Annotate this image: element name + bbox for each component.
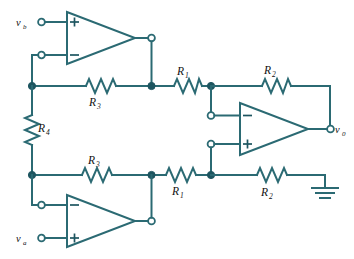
r1-bottom-resistor-symbol <box>166 168 196 182</box>
opamp-triangle <box>67 12 135 64</box>
opamp-triangle <box>67 195 135 247</box>
vb-label: v <box>16 17 21 28</box>
top-rail <box>32 79 211 93</box>
r3-top-label-subscript: 3 <box>96 102 101 111</box>
r4-resistor-symbol <box>25 115 39 145</box>
r3-top-resistor-symbol <box>86 79 116 93</box>
r2-bottom-resistor-symbol <box>257 168 287 182</box>
r1-top-label-subscript: 1 <box>185 71 189 80</box>
r2-top-label-subscript: 2 <box>272 70 276 79</box>
r1-bottom-label: R <box>171 185 179 197</box>
vb-label-subscript: b <box>23 23 27 31</box>
bottom-rail <box>32 168 211 182</box>
vo-label-subscript: 0 <box>342 130 346 138</box>
r2-top-label: R <box>263 64 271 76</box>
plus-icon <box>70 234 79 243</box>
opamp-triangle <box>240 103 308 155</box>
va-label-subscript: a <box>23 239 27 247</box>
r4-label: R <box>37 122 45 134</box>
opamp-bottom-output-terminal[interactable] <box>148 218 155 225</box>
circuit-diagram: v b R 3 R 1 <box>0 0 354 259</box>
ground-icon <box>312 188 338 198</box>
plus-icon <box>70 18 79 27</box>
r1-top-label: R <box>176 65 184 77</box>
right-opamp-inverting-terminal[interactable] <box>208 112 215 119</box>
r2-bottom-ground-branch <box>211 168 325 188</box>
r2-top-resistor-symbol <box>262 79 291 93</box>
va-label: v <box>16 233 21 244</box>
r3-bottom-label-subscript: 3 <box>95 160 100 169</box>
opamp-top-output-terminal[interactable] <box>148 35 155 42</box>
vo-label: v <box>335 124 340 135</box>
top-left-opamp <box>45 12 155 86</box>
va-input-terminal[interactable] <box>38 235 45 242</box>
vb-input-terminal[interactable] <box>38 19 45 26</box>
right-opamp-noninverting-terminal[interactable] <box>208 141 215 148</box>
node-dot-top-mid <box>148 82 155 89</box>
r3-bottom-label: R <box>87 154 95 166</box>
vo-output-terminal[interactable] <box>327 126 334 133</box>
plus-icon <box>243 140 252 149</box>
bottom-left-opamp <box>45 175 155 247</box>
r1-bottom-label-subscript: 1 <box>180 191 184 200</box>
opamp-top-inverting-terminal[interactable] <box>38 52 45 59</box>
r2-bottom-label: R <box>260 186 268 198</box>
r2-top-feedback-branch <box>211 79 330 131</box>
r4-branch <box>25 86 39 175</box>
right-output-opamp <box>240 103 334 155</box>
schematic-canvas: v b R 3 R 1 <box>0 0 354 259</box>
r4-label-subscript: 4 <box>46 128 50 137</box>
vb-input-terminal-group[interactable] <box>38 19 45 26</box>
r1-top-resistor-symbol <box>174 79 202 93</box>
r3-bottom-resistor-symbol <box>82 168 112 182</box>
r2-bottom-label-subscript: 2 <box>269 192 273 201</box>
opamp-bottom-inverting-terminal[interactable] <box>38 202 45 209</box>
r3-top-label: R <box>88 96 96 108</box>
